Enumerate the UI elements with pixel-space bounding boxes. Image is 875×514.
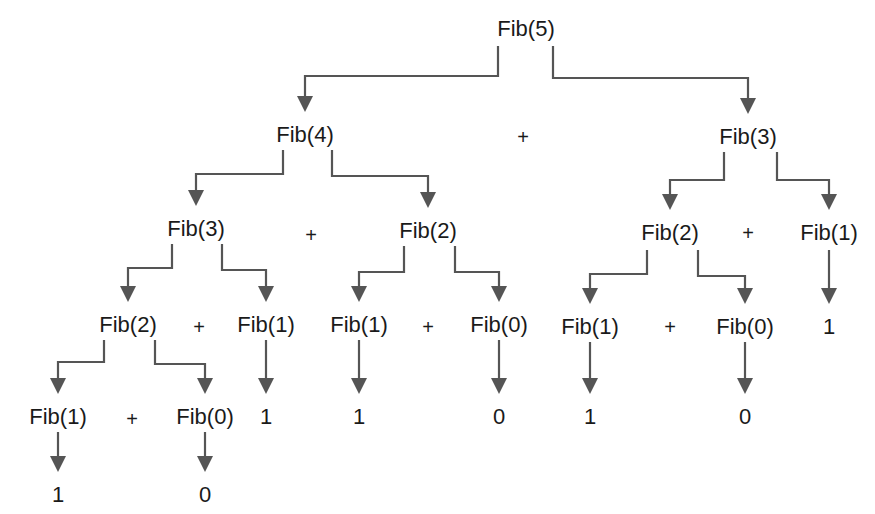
tree-node: Fib(4) bbox=[276, 122, 333, 148]
plus-operator: + bbox=[193, 314, 205, 340]
tree-node: Fib(0) bbox=[176, 404, 233, 430]
leaf-value: 0 bbox=[199, 482, 211, 508]
leaf-value: 1 bbox=[584, 404, 596, 430]
arrow-icon bbox=[821, 250, 837, 304]
tree-node: Fib(0) bbox=[716, 314, 773, 340]
arrow-icon bbox=[582, 250, 647, 304]
arrow-icon bbox=[737, 342, 753, 394]
tree-node: Fib(3) bbox=[719, 124, 776, 150]
arrow-icon bbox=[120, 244, 172, 302]
arrow-icon bbox=[491, 340, 507, 394]
arrow-icon bbox=[258, 340, 274, 394]
arrow-icon bbox=[155, 340, 213, 394]
arrow-icon bbox=[197, 432, 213, 472]
arrow-icon bbox=[455, 246, 507, 302]
tree-node: Fib(1) bbox=[800, 220, 857, 246]
plus-operator: + bbox=[742, 220, 754, 246]
arrow-icon bbox=[662, 152, 724, 210]
leaf-value: 1 bbox=[823, 314, 835, 340]
tree-node: Fib(5) bbox=[497, 16, 554, 42]
arrow-icon bbox=[351, 340, 367, 394]
tree-node: Fib(3) bbox=[167, 216, 224, 242]
leaf-value: 1 bbox=[260, 404, 272, 430]
plus-operator: + bbox=[422, 314, 434, 340]
tree-node: Fib(1) bbox=[237, 312, 294, 338]
tree-node: Fib(1) bbox=[561, 314, 618, 340]
arrow-icon bbox=[698, 250, 753, 304]
arrow-icon bbox=[582, 342, 598, 394]
tree-node: Fib(2) bbox=[99, 312, 156, 338]
fibonacci-recursion-tree: Fib(5)Fib(4)Fib(3)Fib(3)Fib(2)Fib(2)Fib(… bbox=[0, 0, 875, 514]
arrow-icon bbox=[777, 152, 837, 210]
plus-operator: + bbox=[517, 124, 529, 150]
tree-node: Fib(1) bbox=[330, 312, 387, 338]
leaf-value: 1 bbox=[353, 404, 365, 430]
tree-node: Fib(2) bbox=[399, 218, 456, 244]
tree-edges bbox=[0, 0, 875, 514]
plus-operator: + bbox=[664, 314, 676, 340]
tree-node: Fib(2) bbox=[641, 220, 698, 246]
leaf-value: 0 bbox=[493, 404, 505, 430]
tree-node: Fib(0) bbox=[470, 312, 527, 338]
leaf-value: 0 bbox=[739, 404, 751, 430]
arrow-icon bbox=[50, 432, 66, 472]
plus-operator: + bbox=[305, 222, 317, 248]
plus-operator: + bbox=[126, 406, 138, 432]
arrow-icon bbox=[297, 46, 498, 112]
arrow-icon bbox=[351, 246, 404, 302]
arrow-icon bbox=[553, 46, 756, 114]
arrow-icon bbox=[50, 340, 104, 394]
arrow-icon bbox=[188, 150, 283, 206]
arrow-icon bbox=[222, 244, 274, 302]
arrow-icon bbox=[332, 150, 436, 208]
leaf-value: 1 bbox=[52, 482, 64, 508]
tree-node: Fib(1) bbox=[29, 404, 86, 430]
